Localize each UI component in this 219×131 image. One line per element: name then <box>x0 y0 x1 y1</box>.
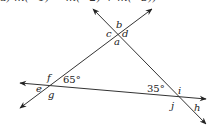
label-i: i <box>178 86 181 96</box>
label-c: c <box>106 29 112 39</box>
label-a: a <box>114 37 120 47</box>
label-h: h <box>194 103 200 113</box>
label-e: e <box>36 84 42 94</box>
angle-35: 35° <box>147 84 165 94</box>
label-g: g <box>48 90 54 100</box>
angle-65: 65° <box>63 75 81 85</box>
line-b <box>93 9 206 124</box>
label-d: d <box>122 29 128 39</box>
label-f: f <box>47 73 51 83</box>
label-j: j <box>171 101 174 111</box>
angle-diagram <box>0 0 219 131</box>
